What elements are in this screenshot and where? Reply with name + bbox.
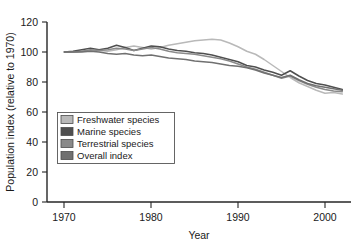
x-tick-label: 1980: [139, 211, 163, 223]
series-layer: [64, 39, 342, 94]
legend-item-marine-species: Marine species: [61, 126, 141, 137]
legend-swatch: [61, 152, 73, 160]
y-tick-label: 0: [32, 196, 38, 208]
y-axis-ticks: 0 20 40 60 80 100: [20, 16, 47, 208]
legend-item-label: Marine species: [77, 126, 141, 137]
y-tick-label: 120: [20, 16, 38, 28]
y-tick-label: 100: [20, 46, 38, 58]
x-axis-title: Year: [188, 229, 210, 241]
legend-item-label: Terrestrial species: [77, 138, 154, 149]
series-line-overall-index: [64, 51, 342, 90]
y-tick-20: 20: [26, 166, 47, 178]
x-tick-label: 1970: [52, 211, 76, 223]
legend-item-label: Freshwater species: [77, 114, 160, 125]
y-tick-label: 20: [26, 166, 38, 178]
y-tick-label: 80: [26, 76, 38, 88]
chart-canvas: Population index (relative to 1970) 0 20…: [0, 0, 355, 248]
y-tick-60: 60: [26, 106, 47, 118]
legend-swatch: [61, 140, 73, 148]
y-tick-label: 40: [26, 136, 38, 148]
legend-swatch: [61, 128, 73, 136]
series-line-freshwater-species: [64, 39, 342, 94]
x-tick-label: 2000: [313, 211, 337, 223]
y-tick-120: 120: [20, 16, 47, 28]
y-tick-100: 100: [20, 46, 47, 58]
y-axis-title: Population index (relative to 1970): [4, 32, 16, 191]
x-tick-1980: 1980: [139, 202, 163, 223]
x-tick-1970: 1970: [52, 202, 76, 223]
x-tick-1990: 1990: [226, 202, 250, 223]
population-index-line-chart: Population index (relative to 1970) 0 20…: [0, 0, 355, 248]
legend-item-label: Overall index: [77, 150, 133, 161]
y-tick-label: 60: [26, 106, 38, 118]
legend-item-overall-index: Overall index: [61, 150, 133, 161]
y-tick-0: 0: [32, 196, 47, 208]
y-tick-40: 40: [26, 136, 47, 148]
chart-legend: Freshwater species Marine species Terres…: [58, 113, 175, 164]
x-tick-2000: 2000: [313, 202, 337, 223]
y-tick-80: 80: [26, 76, 47, 88]
x-axis-ticks: 1970 1980 1990 2000: [52, 202, 337, 223]
x-tick-label: 1990: [226, 211, 250, 223]
legend-swatch: [61, 116, 73, 124]
